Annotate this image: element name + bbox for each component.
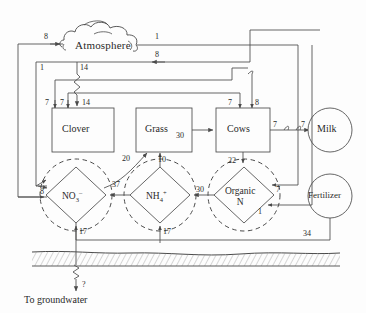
fertilizer-label: Fertilizer — [308, 191, 341, 200]
soil-hatching — [32, 251, 340, 266]
flow-label-nitrate-in-8: 8 — [40, 188, 44, 196]
flow-label-organicn-in-7: 7 — [276, 186, 280, 194]
ammonium-label: NH4+ — [146, 190, 167, 204]
flow-label-cows-organicn-22: 22 — [228, 157, 236, 165]
flow-label-clover-7a: 7 — [45, 99, 49, 107]
fixation-zigzag — [74, 74, 80, 95]
flow-label-fertilizer-34: 34 — [303, 230, 311, 238]
flow-label-atm-in-8: 8 — [44, 33, 48, 41]
grass-label: Grass — [145, 124, 168, 134]
atmosphere-label: Atmosphere — [75, 40, 131, 51]
flow-label-cows-milk-7b: 7 — [301, 121, 305, 129]
leach-zigzag — [73, 265, 79, 279]
flow-label-cows-milk-7a: 7 — [273, 121, 277, 129]
flow-label-soil-ammonium-17: 17 — [163, 228, 171, 236]
flow-label-rail-1: 1 — [40, 64, 44, 72]
flow-label-organicn-ammonium-30: 30 — [196, 186, 204, 194]
flow-label-soil-nitrate-17: 17 — [79, 228, 87, 236]
nitrate-label: NO3– — [62, 190, 82, 204]
rail-cows-to-atm-right — [250, 30, 320, 62]
flow-label-leach: ? — [82, 281, 86, 289]
rail-atm-1-left — [36, 62, 47, 186]
flow-label-nitrate-grass-20: 20 — [122, 155, 130, 163]
diagram-canvas — [0, 0, 366, 313]
flow-label-atm-out-1: 1 — [155, 33, 159, 41]
flow-label-clover-7b: 7 — [60, 99, 64, 107]
cows-label: Cows — [227, 124, 250, 134]
flow-label-ammonium-grass-10: 10 — [158, 156, 166, 164]
organicn-label: OrganicN — [225, 186, 255, 208]
flow-label-grass-cows-30: 30 — [176, 132, 184, 140]
flow-label-ammonium-nitrate-37: 37 — [112, 181, 120, 189]
milk-label: Milk — [317, 124, 336, 134]
groundwater-caption: To groundwater — [24, 295, 87, 305]
flow-label-fix-14-bottom: 14 — [82, 99, 90, 107]
line-hop-symbol — [248, 71, 253, 74]
flow-label-organicn-in-1: 1 — [258, 208, 262, 216]
flow-label-cows-7in: 7 — [228, 99, 232, 107]
clover-label: Clover — [62, 124, 89, 134]
flow-label-cows-atm-8: 8 — [155, 51, 159, 59]
line-hop-milk-1 — [284, 126, 289, 130]
nitrogen-cycle-diagram: Atmosphere Clover Grass Cows Milk Fertil… — [0, 0, 366, 313]
flow-label-fix-14-top: 14 — [80, 64, 88, 72]
flow-label-cows-8top: 8 — [255, 99, 259, 107]
